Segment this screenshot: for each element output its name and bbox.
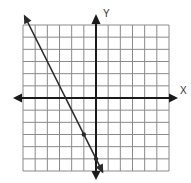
y-axis-bottom-arrow-icon xyxy=(92,171,101,180)
axes xyxy=(13,14,178,180)
x-axis-left-arrow-icon xyxy=(13,94,22,103)
graph-line xyxy=(25,16,103,172)
marked-point xyxy=(94,157,98,161)
plotted-line xyxy=(24,14,103,173)
x-axis-right-arrow-icon xyxy=(169,94,178,103)
marked-point xyxy=(82,132,86,136)
coordinate-graph: X Y xyxy=(0,0,191,183)
y-axis-top-arrow-icon xyxy=(92,14,101,24)
y-axis-label: Y xyxy=(103,8,110,19)
x-axis-label: X xyxy=(180,85,187,96)
